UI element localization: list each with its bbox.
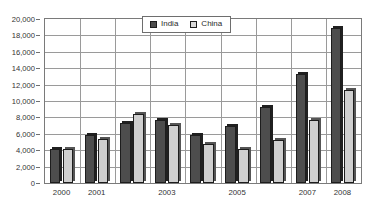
bar-body — [225, 126, 236, 183]
bar-body — [296, 74, 307, 183]
y-tick-label: 12,000 — [12, 80, 35, 89]
bar-body — [238, 149, 249, 183]
bar-body — [155, 120, 166, 183]
x-tick-label: 2000 — [53, 188, 70, 197]
bar-china-2002 — [133, 112, 146, 183]
bar-china-2003 — [168, 123, 181, 183]
bar-right-edge — [214, 142, 216, 181]
bar-group — [326, 19, 361, 183]
bar-body — [273, 140, 284, 183]
bar-body — [133, 114, 144, 183]
legend-label-china: China — [201, 20, 222, 28]
bar-group — [150, 19, 185, 183]
y-tick-label: 10,000 — [12, 97, 35, 106]
bar-body — [50, 149, 61, 183]
y-tick-mark — [36, 117, 40, 118]
y-tick-label: 6,000 — [16, 129, 35, 138]
bar-body — [331, 28, 342, 183]
bar-body — [168, 125, 179, 183]
y-tick-label: 20,000 — [12, 15, 35, 24]
bar-india-2006 — [260, 105, 273, 183]
y-tick-label: 0 — [31, 179, 35, 188]
x-tick-label: 2005 — [228, 188, 245, 197]
bar-china-2004 — [203, 142, 216, 183]
y-tick-mark — [36, 150, 40, 151]
bar-group — [80, 19, 115, 183]
y-axis: 02,0004,0006,0008,00010,00012,00014,0001… — [0, 18, 40, 184]
x-tick-label: 2003 — [158, 188, 175, 197]
y-tick-label: 8,000 — [16, 113, 35, 122]
y-tick-mark — [36, 35, 40, 36]
x-tick-label: 2001 — [88, 188, 105, 197]
bar-china-2007 — [309, 118, 322, 183]
bar-right-edge — [144, 112, 146, 181]
bar-body — [85, 135, 96, 183]
x-tick-label: 2007 — [299, 188, 316, 197]
bar-india-2005 — [225, 124, 238, 183]
bar-china-2008 — [344, 88, 357, 183]
bar-group — [185, 19, 220, 183]
bar-body — [190, 135, 201, 183]
legend-item-india: India — [150, 20, 178, 28]
y-tick-mark — [36, 19, 40, 20]
bar-body — [63, 149, 74, 183]
bar-china-2001 — [98, 137, 111, 183]
y-tick-mark — [36, 183, 40, 184]
y-tick-label: 16,000 — [12, 47, 35, 56]
bar-india-2008 — [331, 26, 344, 183]
bar-india-2004 — [190, 133, 203, 183]
y-tick-mark — [36, 68, 40, 69]
bar-china-2006 — [273, 138, 286, 183]
bar-india-2001 — [85, 133, 98, 183]
bar-body — [344, 90, 355, 183]
bar-right-edge — [249, 147, 251, 181]
bar-group — [256, 19, 291, 183]
bar-right-edge — [354, 88, 356, 181]
bar-india-2002 — [120, 121, 133, 183]
bar-right-edge — [108, 137, 110, 181]
legend-label-india: India — [161, 20, 178, 28]
bar-china-2005 — [238, 147, 251, 183]
bar-right-edge — [284, 138, 286, 181]
y-tick-mark — [36, 101, 40, 102]
bar-body — [203, 144, 214, 183]
y-tick-label: 4,000 — [16, 146, 35, 155]
chart-legend: India China — [142, 16, 231, 33]
bar-india-2003 — [155, 118, 168, 183]
bar-group — [291, 19, 326, 183]
bar-right-edge — [179, 123, 181, 181]
bar-body — [260, 107, 271, 183]
bar-chart: 02,0004,0006,0008,00010,00012,00014,0001… — [0, 0, 370, 211]
legend-swatch-india-icon — [150, 21, 157, 28]
x-tick-label: 2008 — [334, 188, 351, 197]
y-tick-mark — [36, 85, 40, 86]
bar-china-2000 — [63, 147, 76, 183]
bar-india-2007 — [296, 72, 309, 183]
bar-group — [45, 19, 80, 183]
bar-right-edge — [319, 118, 321, 181]
bar-group — [221, 19, 256, 183]
y-tick-mark — [36, 167, 40, 168]
y-tick-mark — [36, 52, 40, 53]
y-tick-label: 18,000 — [12, 31, 35, 40]
bar-body — [120, 123, 131, 183]
legend-item-china: China — [190, 20, 222, 28]
legend-swatch-china-icon — [190, 21, 197, 28]
bar-body — [309, 120, 320, 183]
bar-group — [115, 19, 150, 183]
bar-body — [98, 139, 109, 183]
y-tick-label: 2,000 — [16, 162, 35, 171]
x-axis: 200020012003200520072008 — [44, 186, 362, 208]
bar-right-edge — [73, 147, 75, 181]
bar-india-2000 — [50, 147, 63, 183]
y-tick-label: 14,000 — [12, 64, 35, 73]
y-tick-mark — [36, 134, 40, 135]
bars-layer — [45, 19, 361, 183]
